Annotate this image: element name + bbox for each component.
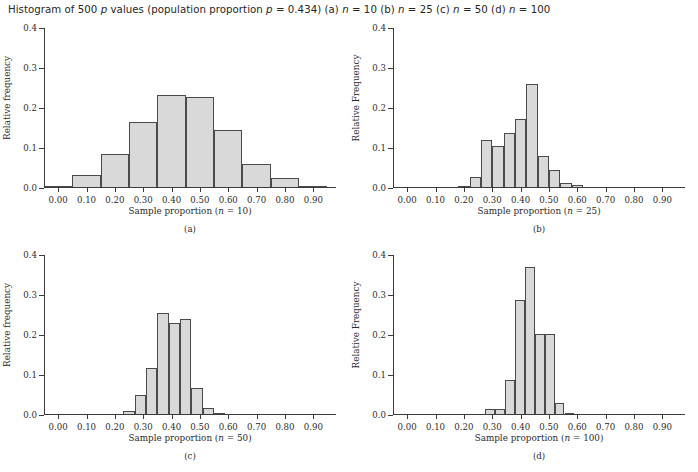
y-axis-tick-label: 0.3: [372, 63, 386, 73]
x-axis-tick: [313, 188, 314, 192]
x-axis-title-prefix: Sample proportion (: [477, 206, 567, 216]
x-axis-tick-label: 0.20: [105, 422, 124, 432]
y-axis-tick: [39, 295, 44, 296]
histogram-bar: [504, 133, 515, 188]
x-axis-tick: [228, 415, 229, 419]
x-axis-line-a: [44, 187, 336, 188]
x-axis-title-a: Sample proportion (n = 10): [44, 206, 336, 216]
x-axis-title-n-value: = 25): [573, 206, 601, 216]
y-axis-tick-label: 0.2: [372, 103, 386, 113]
caption-n-c: = 50 (d): [460, 4, 509, 15]
x-axis-tick-label: 0.50: [539, 195, 558, 205]
x-axis-tick: [407, 188, 408, 192]
x-axis-tick: [492, 415, 493, 419]
x-axis-tick: [577, 415, 578, 419]
y-axis-title-d: Relative Frequency: [351, 282, 361, 369]
y-axis-tick: [39, 28, 44, 29]
x-axis-title-n-value: = 10): [224, 206, 252, 216]
x-axis-tick: [257, 415, 258, 419]
x-axis-tick: [634, 415, 635, 419]
x-axis-tick: [313, 415, 314, 419]
x-axis-tick-label: 0.30: [483, 422, 502, 432]
histogram-bar: [505, 380, 515, 415]
panel-subcaption-b: (b): [393, 224, 685, 234]
x-axis-tick: [436, 188, 437, 192]
x-axis-tick-label: 0.60: [219, 195, 238, 205]
y-axis-tick: [388, 28, 393, 29]
x-axis-tick-label: 0.00: [49, 195, 68, 205]
y-axis-line-b: [393, 28, 394, 188]
x-axis-tick-label: 0.90: [304, 422, 323, 432]
y-axis-tick: [39, 108, 44, 109]
x-axis-tick-label: 0.80: [624, 195, 643, 205]
caption-prefix: Histogram of 500: [8, 4, 101, 15]
x-axis-line-d: [393, 414, 685, 415]
x-axis-tick-label: 0.30: [483, 195, 502, 205]
x-axis-tick: [549, 188, 550, 192]
caption-n-d: = 100: [516, 4, 551, 15]
x-axis-tick: [143, 188, 144, 192]
x-axis-tick-label: 0.00: [49, 422, 68, 432]
histogram-bar: [180, 319, 191, 415]
x-axis-tick: [58, 188, 59, 192]
caption-middle: values (population proportion: [107, 4, 266, 15]
histogram-bar: [525, 267, 535, 415]
panel-subcaption-d: (d): [393, 451, 685, 461]
x-axis-tick-label: 0.60: [568, 195, 587, 205]
histogram-panel-b: 0.00.10.20.30.40.000.100.200.300.400.500…: [349, 18, 698, 245]
x-axis-tick: [662, 415, 663, 419]
histogram-bar: [492, 146, 503, 188]
y-axis-tick-label: 0.1: [23, 370, 37, 380]
y-axis-title-b: Relative Frequency: [351, 55, 361, 142]
caption-p-value: = 0.434) (a): [273, 4, 343, 15]
x-axis-tick: [200, 415, 201, 419]
histogram-bar: [526, 84, 537, 188]
x-axis-tick-label: 0.70: [596, 422, 615, 432]
x-axis-title-n-value: = 100): [570, 433, 603, 443]
histogram-bar: [157, 313, 168, 415]
y-axis-tick: [39, 148, 44, 149]
y-axis-tick-label: 0.1: [372, 370, 386, 380]
x-axis-title-prefix: Sample proportion (: [475, 433, 565, 443]
y-axis-line-c: [44, 255, 45, 415]
y-axis-tick: [388, 255, 393, 256]
histogram-panel-c: 0.00.10.20.30.40.000.100.200.300.400.500…: [0, 245, 349, 472]
x-axis-tick: [521, 188, 522, 192]
x-axis-tick: [464, 415, 465, 419]
y-axis-tick-label: 0.0: [23, 410, 37, 420]
x-axis-tick: [285, 415, 286, 419]
histogram-bar: [214, 130, 242, 188]
x-axis-title-d: Sample proportion (n = 100): [393, 433, 685, 443]
x-axis-tick-label: 0.10: [426, 195, 445, 205]
y-axis-tick-label: 0.2: [23, 330, 37, 340]
y-axis-tick-label: 0.0: [372, 183, 386, 193]
histogram-bar: [545, 334, 555, 415]
x-axis-title-b: Sample proportion (n = 25): [393, 206, 685, 216]
histogram-bar: [242, 164, 270, 188]
panel-subcaption-a: (a): [44, 224, 336, 234]
x-axis-tick-label: 0.20: [454, 195, 473, 205]
histogram-bar: [535, 334, 545, 415]
x-axis-tick: [58, 415, 59, 419]
histogram-bar: [191, 388, 202, 415]
x-axis-tick-label: 0.10: [77, 195, 96, 205]
histogram-bar: [515, 300, 525, 415]
histogram-bar: [549, 170, 560, 188]
x-axis-tick: [662, 188, 663, 192]
x-axis-tick-label: 0.70: [596, 195, 615, 205]
histogram-bar: [515, 119, 526, 188]
y-axis-tick-label: 0.2: [372, 330, 386, 340]
y-axis-tick-label: 0.0: [372, 410, 386, 420]
x-axis-tick-label: 0.70: [247, 422, 266, 432]
x-axis-tick-label: 0.20: [105, 195, 124, 205]
x-axis-line-b: [393, 187, 685, 188]
x-axis-tick: [228, 188, 229, 192]
x-axis-tick-label: 0.40: [162, 422, 181, 432]
y-axis-tick-label: 0.4: [372, 250, 386, 260]
y-axis-tick: [39, 255, 44, 256]
x-axis-tick: [143, 415, 144, 419]
x-axis-tick-label: 0.80: [624, 422, 643, 432]
x-axis-tick-label: 0.20: [454, 422, 473, 432]
x-axis-line-c: [44, 414, 336, 415]
x-axis-tick: [115, 188, 116, 192]
